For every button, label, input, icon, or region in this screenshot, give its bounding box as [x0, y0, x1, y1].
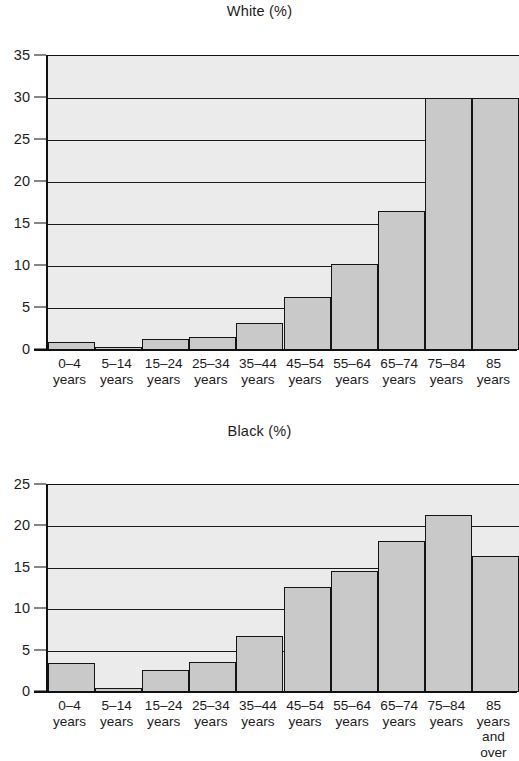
y-tick-label: 5 — [22, 642, 30, 657]
y-tick-mark — [34, 55, 46, 56]
chart-black-plot-wrap: 0510152025 0–4 years5–14 years15–24 year… — [0, 464, 519, 761]
bar — [425, 515, 472, 692]
chart-black-bars — [48, 485, 519, 692]
bar — [189, 662, 236, 692]
y-tick-mark — [34, 265, 46, 266]
bar — [331, 264, 378, 350]
bar — [142, 670, 189, 692]
bar — [236, 636, 283, 692]
y-tick-label: 0 — [22, 684, 30, 699]
bar — [378, 211, 425, 350]
y-tick-label: 25 — [14, 132, 30, 147]
y-tick-mark — [34, 484, 46, 485]
bar — [425, 98, 472, 350]
x-axis-label: 85 years — [464, 356, 519, 387]
chart-white-bars — [48, 56, 519, 350]
bar — [284, 587, 331, 692]
x-axis-baseline — [34, 691, 517, 693]
chart-black: Black (%) 0510152025 0–4 years5–14 years… — [0, 420, 519, 752]
chart-black-title: Black (%) — [0, 420, 519, 442]
y-tick-mark — [34, 649, 46, 650]
bar — [472, 556, 519, 692]
chart-white-plot-wrap: 05101520253035 0–4 years5–14 years15–24 … — [0, 44, 519, 469]
bar — [472, 98, 519, 350]
y-tick-label: 10 — [14, 601, 30, 616]
bar — [236, 323, 283, 350]
chart-white-title: White (%) — [0, 0, 519, 22]
y-tick-mark — [34, 307, 46, 308]
bar — [331, 571, 378, 692]
y-tick-label: 10 — [14, 258, 30, 273]
y-tick-mark — [34, 223, 46, 224]
chart-black-y-axis: 0510152025 — [0, 464, 30, 761]
y-tick-mark — [34, 139, 46, 140]
y-tick-mark — [34, 608, 46, 609]
y-tick-label: 0 — [22, 342, 30, 357]
chart-white-y-axis: 05101520253035 — [0, 44, 30, 469]
y-tick-label: 5 — [22, 300, 30, 315]
x-axis-baseline — [34, 349, 517, 351]
bar — [48, 663, 95, 692]
y-tick-mark — [34, 97, 46, 98]
y-tick-label: 30 — [14, 90, 30, 105]
chart-white: White (%) 05101520253035 0–4 years5–14 y… — [0, 0, 519, 400]
y-tick-label: 20 — [14, 174, 30, 189]
y-tick-label: 15 — [14, 560, 30, 575]
y-tick-mark — [34, 181, 46, 182]
y-tick-label: 25 — [14, 477, 30, 492]
y-tick-label: 15 — [14, 216, 30, 231]
chart-black-plot-area — [46, 484, 519, 692]
bar — [378, 541, 425, 692]
bar — [284, 297, 331, 350]
y-tick-label: 35 — [14, 48, 30, 63]
y-tick-label: 20 — [14, 518, 30, 533]
chart-white-plot-area — [46, 55, 519, 350]
x-axis-label: 85 years and over — [464, 698, 519, 760]
y-tick-mark — [34, 525, 46, 526]
y-tick-mark — [34, 566, 46, 567]
